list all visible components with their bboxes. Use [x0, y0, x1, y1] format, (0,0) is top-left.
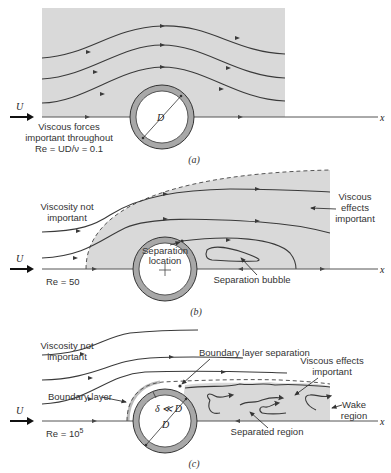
x-axis-label-b: x	[379, 264, 385, 275]
x-axis-label-c: x	[379, 416, 385, 427]
viscosity-not-important-c-line2: important	[47, 351, 87, 362]
freestream-arrow-a	[10, 113, 34, 121]
viscous-effects-b-line3: important	[335, 213, 375, 224]
reynolds-label-c: Re = 105	[46, 427, 84, 439]
delta-label: δ ≪ D	[155, 403, 183, 414]
velocity-symbol-b: U	[16, 253, 24, 264]
boundary-layer-separation-label: Boundary layer separation	[199, 347, 310, 358]
reynolds-label-b: Re = 50	[46, 276, 80, 287]
viscous-forces-label-line2: important throughout	[25, 132, 113, 143]
viscosity-not-important-b-line2: important	[47, 212, 87, 223]
viscous-forces-label-line1: Viscous forces	[38, 121, 100, 132]
wake-region-line2: region	[341, 410, 367, 421]
x-axis-label-a: x	[379, 112, 385, 123]
viscous-effects-c-line1: Viscous effects	[300, 355, 364, 366]
separation-bubble-label: Separation bubble	[213, 274, 290, 285]
freestream-arrow-b	[10, 265, 34, 273]
wake-region-line1: Wake	[342, 399, 366, 410]
viscous-effects-b-line2: effects	[341, 202, 369, 213]
panel-a: x U D Viscous forces important throughou…	[10, 8, 385, 166]
caption-b: (b)	[190, 306, 202, 318]
viscosity-not-important-b-line1: Viscosity not	[40, 201, 94, 212]
diameter-label-a: D	[156, 112, 165, 123]
freestream-arrow-c	[10, 417, 34, 425]
boundary-layer-label: Boundary layer	[48, 391, 112, 402]
reynolds-exponent-c: 5	[80, 427, 84, 434]
flow-past-cylinder-diagram: x U D Viscous forces important throughou…	[0, 0, 391, 473]
velocity-symbol-c: U	[16, 405, 24, 416]
caption-c: (c)	[188, 458, 200, 470]
reynolds-label-a: Re = UD/ν = 0.1	[35, 143, 103, 154]
wake-region-pointer	[332, 405, 342, 408]
viscosity-not-important-c-line1: Viscosity not	[40, 340, 94, 351]
diameter-label-c: D	[161, 419, 170, 430]
velocity-symbol-a: U	[16, 101, 24, 112]
separation-location-line2: location	[149, 255, 182, 266]
panel-c: x U δ ≪ D D Viscosity not important Boun…	[10, 330, 385, 470]
panel-b: x U Viscosity not important Viscous effe…	[10, 170, 385, 318]
reynolds-base-c: Re = 10	[46, 428, 80, 439]
viscous-effects-c-line2: important	[312, 366, 352, 377]
viscous-effects-b-line1: Viscous	[338, 191, 371, 202]
caption-a: (a)	[188, 154, 200, 166]
